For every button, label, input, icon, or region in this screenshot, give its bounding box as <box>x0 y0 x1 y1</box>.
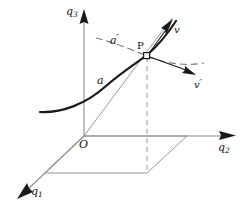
axis-q3 <box>80 9 89 136</box>
vector-v-prime <box>147 56 196 75</box>
vector-v-prime-line <box>147 56 186 70</box>
vector-label-v: v <box>174 25 180 35</box>
point-label-p: P <box>137 41 144 51</box>
axis-label-q3: q3 <box>66 6 78 18</box>
square-point-icon-p <box>144 53 150 59</box>
axis-q1-line <box>27 136 84 190</box>
origin-label: O <box>79 139 88 150</box>
curve-label-a-prime: a′ <box>110 33 119 46</box>
arrowhead-icon-q2 <box>219 131 236 140</box>
axis-label-q2: q2 <box>218 142 230 154</box>
arrowhead-icon-v-prime <box>182 66 196 75</box>
curve-a-solid <box>40 21 176 112</box>
arrowhead-icon-q3 <box>80 9 89 24</box>
axis-q2 <box>84 131 236 140</box>
plane-edge-right <box>147 136 187 173</box>
diagram-figure: q3 q2 q1 O P a a′ v v′ <box>0 0 247 208</box>
vector-v <box>147 19 173 56</box>
curve-label-a: a <box>97 75 104 86</box>
vector-v-line <box>147 27 168 56</box>
diagram-canvas <box>0 0 247 208</box>
axis-q1 <box>17 136 84 199</box>
axis-label-q1: q1 <box>31 186 43 198</box>
base-plane-parallelogram <box>45 136 187 173</box>
vector-label-v-prime: v′ <box>194 78 202 90</box>
